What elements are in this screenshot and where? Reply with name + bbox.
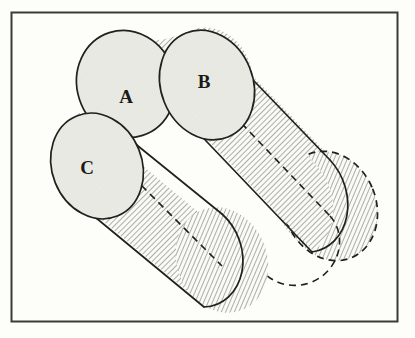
geometric-figure: A B C bbox=[0, 0, 415, 338]
label-b: B bbox=[198, 71, 211, 92]
figure-container: A B C bbox=[0, 0, 415, 338]
label-a: A bbox=[119, 86, 133, 107]
label-c: C bbox=[80, 157, 94, 178]
